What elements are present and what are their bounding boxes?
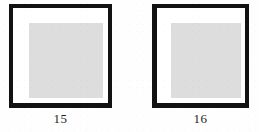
panel-caption-number: 15: [9, 111, 112, 126]
figure-panel-15: 15: [9, 4, 112, 132]
panel-frame-border: [152, 4, 249, 108]
panel-caption-number: 16: [152, 111, 249, 126]
panel-plate-image: [171, 23, 241, 98]
figure-panel-16: 16: [152, 4, 249, 132]
figure-plate: 15 16: [0, 0, 259, 132]
panel-plate-image: [29, 23, 103, 98]
panel-frame-border: [9, 4, 112, 108]
